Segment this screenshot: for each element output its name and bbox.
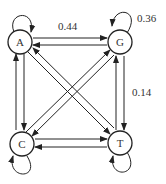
transition-diagram: A G C T 0.44 0.36 0.14 — [0, 0, 166, 184]
node-t: T — [108, 131, 132, 155]
node-g: G — [108, 30, 132, 54]
node-c: C — [10, 132, 34, 156]
edge-label-g-self: 0.36 — [137, 12, 157, 24]
node-c-label: C — [18, 138, 25, 150]
node-a: A — [8, 30, 32, 54]
node-g-label: G — [116, 36, 124, 48]
self-loop-a — [13, 15, 32, 32]
edge-t-to-a — [33, 48, 114, 128]
self-loop-c — [12, 156, 31, 174]
node-a-label: A — [16, 36, 24, 48]
edge-label-a-to-g: 0.44 — [58, 20, 78, 32]
edge-g-to-c — [32, 55, 114, 136]
edge-a-to-t — [28, 52, 110, 134]
edge-label-g-to-t: 0.14 — [132, 86, 152, 98]
node-t-label: T — [117, 137, 124, 149]
